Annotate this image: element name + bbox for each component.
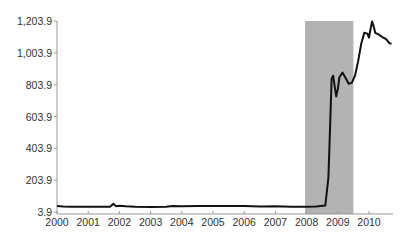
x-tick-label: 2007 bbox=[264, 216, 288, 228]
line-chart: 3.9203.9403.9603.9803.91,003.91,203.9 20… bbox=[0, 0, 418, 240]
x-tick-label: 2005 bbox=[201, 216, 225, 228]
y-tick-label: 403.9 bbox=[26, 142, 52, 154]
x-tick-label: 2009 bbox=[326, 216, 350, 228]
x-axis: 2000200120022003200420052006200720082009… bbox=[45, 211, 393, 228]
y-tick-label: 203.9 bbox=[26, 174, 52, 186]
shaded-region bbox=[305, 21, 353, 214]
x-tick-label: 2003 bbox=[139, 216, 163, 228]
x-tick-label: 2000 bbox=[45, 216, 69, 228]
y-tick-label: 1,203.9 bbox=[17, 15, 52, 27]
x-tick-label: 2006 bbox=[233, 216, 257, 228]
y-axis: 3.9203.9403.9603.9803.91,003.91,203.9 bbox=[17, 15, 57, 218]
x-tick-label: 2010 bbox=[357, 216, 381, 228]
y-tick-label: 803.9 bbox=[26, 79, 52, 91]
x-tick-label: 2002 bbox=[108, 216, 132, 228]
recession-shading bbox=[305, 21, 353, 214]
y-tick-label: 1,003.9 bbox=[17, 47, 52, 59]
x-tick-label: 2008 bbox=[295, 216, 319, 228]
x-tick-label: 2004 bbox=[170, 216, 194, 228]
x-tick-label: 2001 bbox=[77, 216, 101, 228]
y-tick-label: 603.9 bbox=[26, 111, 52, 123]
